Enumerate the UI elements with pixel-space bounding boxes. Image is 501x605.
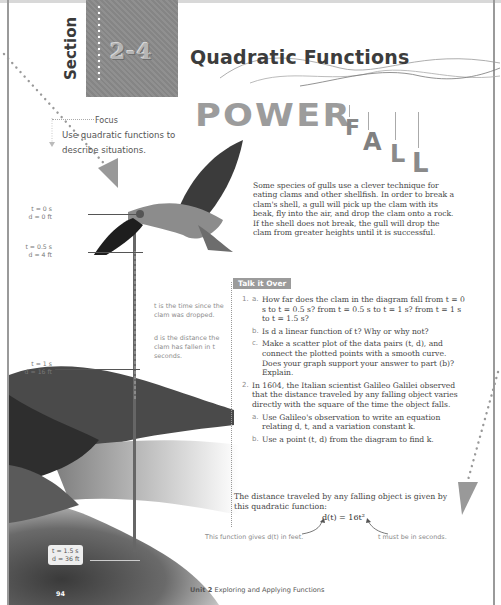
level-line (55, 369, 140, 370)
formula-note-feet: This function gives d(t) in feet. (205, 533, 303, 541)
question-letter: c. (252, 339, 258, 349)
question-2a: a. Use Galileo's observation to write an… (242, 413, 467, 432)
question-number: 1. (242, 295, 249, 305)
formula-note-seconds: t must be in seconds. (378, 533, 447, 541)
question-2: 2. In 1604, the Italian scientist Galile… (242, 381, 467, 410)
fall-streak (368, 112, 369, 130)
power-banner-text: POWER (195, 96, 352, 134)
distance-value: d = 16 ft (10, 368, 52, 376)
page-number: 94 (56, 590, 65, 598)
falling-clam-trail (134, 250, 136, 400)
time-label-1: t = 0.5 s d = 4 ft (10, 243, 52, 259)
question-letter: a. (252, 295, 259, 305)
question-letter: b. (252, 327, 259, 337)
distance-value: d = 36 ft (52, 555, 79, 563)
focus-label: Focus (95, 116, 118, 125)
level-line (88, 252, 143, 253)
note-t-definition: t is the time since the clam was dropped… (154, 302, 224, 320)
rocky-shore-photo (9, 355, 239, 605)
talk-it-over-rule (231, 282, 233, 527)
focus-text: Use quadratic functions to describe situ… (62, 128, 182, 158)
question-text: Make a scatter plot of the data pairs (t… (262, 339, 454, 377)
question-text: How far does the clam in the diagram fal… (262, 295, 465, 323)
question-text: Use Galileo's observation to write an eq… (262, 413, 440, 432)
question-1b: b. Is d a linear function of t? Why or w… (242, 327, 467, 337)
fall-streak (418, 112, 419, 148)
fall-letter-l1: L (390, 140, 405, 168)
question-1c: c. Make a scatter plot of the data pairs… (242, 339, 467, 377)
note-d-definition: d is the distance the clam has fallen in… (154, 334, 224, 361)
footer-unit: Unit 2 Exploring and Applying Functions (190, 586, 324, 594)
time-label-0: t = 0 s d = 0 ft (10, 205, 52, 221)
time-value: t = 0.5 s (10, 243, 52, 251)
page-top-border (0, 0, 501, 3)
question-number: 2. (242, 381, 249, 391)
fall-letter-a: A (363, 128, 382, 156)
unit-label: Unit 2 (190, 586, 212, 594)
talk-it-over-heading: Talk it Over (233, 278, 291, 289)
question-text: In 1604, the Italian scientist Galileo G… (252, 381, 458, 409)
focus-rule (52, 119, 94, 120)
fall-letter-f: F (345, 115, 360, 140)
question-1a: 1. a. How far does the clam in the diagr… (242, 295, 467, 324)
question-letter: a. (252, 413, 259, 423)
time-value: t = 1 s (10, 360, 52, 368)
distance-statement: The distance traveled by any falling obj… (234, 492, 464, 511)
fall-streak (395, 112, 396, 140)
question-text: Is d a linear function of t? Why or why … (262, 327, 429, 336)
questions-list: 1. a. How far does the clam in the diagr… (242, 295, 467, 447)
fall-letter-l2: L (412, 148, 429, 178)
question-2b: b. Use a point (t, d) from the diagram t… (242, 435, 467, 445)
intro-paragraph: Some species of gulls use a clever techn… (253, 181, 458, 237)
distance-value: d = 4 ft (10, 251, 52, 259)
time-label-2: t = 1 s d = 16 ft (10, 360, 52, 376)
distance-value: d = 0 ft (10, 213, 52, 221)
unit-title: Exploring and Applying Functions (214, 586, 324, 594)
level-line (88, 214, 143, 215)
time-value: t = 0 s (10, 205, 52, 213)
page-title: Quadratic Functions (190, 46, 409, 68)
fall-streak (349, 105, 350, 117)
level-line (90, 560, 140, 561)
question-letter: b. (252, 435, 259, 445)
time-value: t = 1.5 s (52, 547, 79, 555)
question-text: Use a point (t, d) from the diagram to f… (262, 435, 434, 444)
time-label-3: t = 1.5 s d = 36 ft (48, 545, 83, 565)
